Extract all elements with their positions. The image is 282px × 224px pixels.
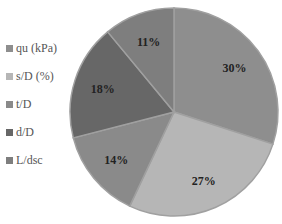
slice-percent-label: 18% — [91, 82, 115, 96]
legend-swatch-icon — [6, 157, 13, 164]
legend-swatch-icon — [6, 129, 13, 136]
legend-item-s-d: s/D (%) — [6, 62, 57, 90]
legend-item-l-dsc: L/dsc — [6, 146, 57, 174]
legend-label: L/dsc — [16, 153, 43, 168]
legend-item-d-d: d/D — [6, 118, 57, 146]
legend-swatch-icon — [6, 101, 13, 108]
slice-percent-label: 11% — [137, 35, 160, 49]
legend-label: s/D (%) — [16, 69, 54, 84]
legend-item-t-d: t/D — [6, 90, 57, 118]
legend-label: d/D — [16, 125, 34, 140]
pie-chart: 30%27%14%18%11% — [66, 4, 282, 220]
chart-legend: qu (kPa) s/D (%) t/D d/D L/dsc — [6, 34, 57, 174]
pie-slices — [70, 8, 278, 216]
legend-label: qu (kPa) — [16, 41, 57, 56]
legend-swatch-icon — [6, 73, 13, 80]
legend-item-qu: qu (kPa) — [6, 34, 57, 62]
slice-percent-label: 14% — [104, 153, 128, 167]
legend-swatch-icon — [6, 45, 13, 52]
slice-percent-label: 30% — [223, 61, 247, 75]
legend-label: t/D — [16, 97, 31, 112]
slice-percent-label: 27% — [192, 174, 216, 188]
